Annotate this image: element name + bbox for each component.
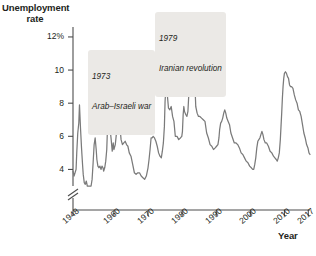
y-tick-label-3: 6: [20, 131, 64, 141]
y-tick-label-2: 8: [20, 98, 64, 108]
annotation-1973: 1973 Arab–Israeli war: [88, 50, 155, 135]
y-tick-label-4: 4: [20, 164, 64, 174]
annotation-1979: 1979 Iranian revolution: [155, 12, 226, 97]
unemployment-rate-chart: Unemployment rate Year 12%10864 19481960…: [0, 0, 316, 256]
y-tick-marks: [68, 37, 73, 170]
annotation-1973-event: Arab–Israeli war: [92, 102, 151, 112]
annotation-1979-event: Iranian revolution: [159, 64, 222, 74]
y-tick-label-1: 10: [20, 65, 64, 75]
y-tick-label-0: 12%: [20, 31, 64, 41]
annotation-1979-year: 1979: [159, 34, 222, 44]
annotation-1973-year: 1973: [92, 72, 151, 82]
